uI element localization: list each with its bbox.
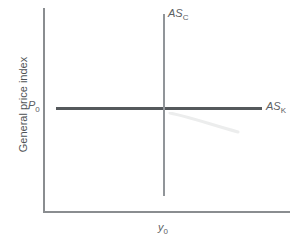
x-tick-label-y0: y0 bbox=[158, 222, 168, 236]
y-tick-label-p0: P0 bbox=[28, 100, 40, 114]
curve-as-k bbox=[56, 107, 262, 110]
as-k-subscript: K bbox=[281, 106, 286, 115]
as-k-symbol: AS bbox=[266, 100, 281, 112]
curve-as-c bbox=[163, 14, 165, 196]
y-axis-title: General price index bbox=[18, 40, 29, 170]
x-axis-line bbox=[43, 211, 290, 213]
as-c-subscript: C bbox=[183, 13, 189, 22]
y0-subscript: 0 bbox=[164, 227, 168, 236]
p0-subscript: 0 bbox=[35, 105, 39, 114]
curve-label-as-k: ASK bbox=[266, 101, 286, 115]
scan-artifact bbox=[168, 112, 240, 134]
y-axis-line bbox=[43, 8, 45, 213]
aggregate-supply-diagram: General price index P0 y0 ASC ASK bbox=[0, 0, 295, 242]
as-c-symbol: AS bbox=[168, 7, 183, 19]
curve-label-as-c: ASC bbox=[168, 8, 188, 22]
